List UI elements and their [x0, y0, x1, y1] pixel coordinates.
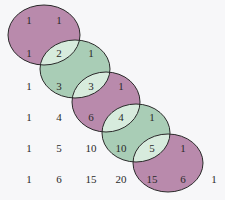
- cell-r0-c0: 1: [26, 14, 32, 26]
- cell-r5-c5: 6: [180, 173, 186, 185]
- pascal-diagram: 1 1 1 2 1 1 3 3 1 1 4 6 4 1 1 5 10 10 5 …: [0, 0, 225, 200]
- cell-r3-c1: 4: [56, 111, 62, 123]
- cell-r5-c3: 20: [116, 173, 128, 185]
- cell-r3-c2: 6: [88, 111, 94, 123]
- cell-r5-c1: 6: [56, 173, 62, 185]
- cell-r4-c2: 10: [86, 142, 98, 154]
- cell-r4-c1: 5: [56, 142, 62, 154]
- cell-r5-c0: 1: [26, 173, 32, 185]
- cell-r2-c3: 1: [118, 80, 124, 92]
- cell-r4-c5: 1: [180, 142, 186, 154]
- cell-r3-c3: 4: [118, 111, 124, 123]
- cell-r5-c6: 1: [211, 173, 217, 185]
- cell-r4-c0: 1: [26, 142, 32, 154]
- cell-r2-c2: 3: [88, 80, 94, 92]
- cell-r1-c2: 1: [88, 47, 94, 59]
- cell-r1-c1: 2: [56, 47, 62, 59]
- cell-r5-c4: 15: [147, 173, 159, 185]
- cell-r2-c1: 3: [56, 80, 62, 92]
- cell-r5-c2: 15: [86, 173, 98, 185]
- cell-r4-c4: 5: [149, 142, 155, 154]
- cell-r4-c3: 10: [116, 142, 128, 154]
- cell-r0-c1: 1: [56, 14, 62, 26]
- cell-r2-c0: 1: [26, 80, 32, 92]
- cell-r1-c0: 1: [26, 47, 32, 59]
- cell-r3-c0: 1: [26, 111, 32, 123]
- cell-r3-c4: 1: [149, 111, 155, 123]
